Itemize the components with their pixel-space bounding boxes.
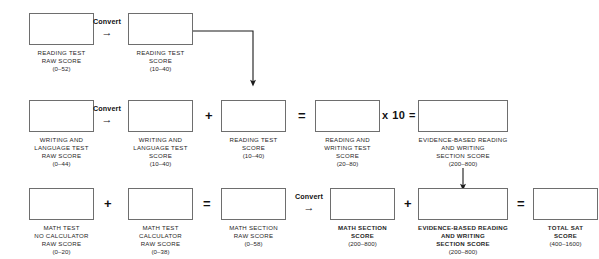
operator-equals-row3-a: = [203,197,211,210]
caption-line: AND WRITING [418,144,508,152]
caption-line: MATH TEST [128,224,193,232]
node-caption: MATH SECTION RAW SCORE (0–58) [221,224,286,248]
score-box[interactable] [221,100,286,132]
score-box[interactable] [29,13,94,45]
caption-range: (20–80) [315,160,380,168]
operator-plus-row3-a: + [104,197,112,210]
caption-line: WRITING AND [128,136,193,144]
convert-label: Convert [288,192,330,201]
caption-line: SCORE [533,232,598,240]
caption-range: (200–800) [330,240,395,248]
operator-equals-row2: = [298,109,306,122]
sat-score-conversion-diagram: READING TEST RAW SCORE (0–52) Convert → … [0,0,599,259]
node-caption: EVIDENCE-BASED READING AND WRITING SECTI… [418,224,508,256]
caption-line: READING AND [315,136,380,144]
node-caption: WRITING AND LANGUAGE TEST RAW SCORE (0–4… [29,136,94,168]
operator-plus-row3-b: + [404,197,412,210]
operator-equals-row3-b: = [517,197,525,210]
node-reading-and-writing-test-score: READING AND WRITING TEST SCORE (20–80) [315,100,380,168]
score-box[interactable] [315,100,380,132]
caption-range: (0–58) [221,240,286,248]
caption-line: MATH SECTION [330,224,395,232]
arrow-right-icon: → [288,202,330,213]
convert-step-writing: Convert → [86,104,128,125]
caption-range: (0–44) [29,160,94,168]
score-box[interactable] [221,188,286,220]
node-caption: TOTAL SAT SCORE (400–1600) [533,224,598,248]
node-caption: READING TEST SCORE (10–40) [128,49,193,73]
caption-range: (200–800) [418,248,508,256]
caption-line: RAW SCORE [29,152,94,160]
node-writing-language-test-raw-score: WRITING AND LANGUAGE TEST RAW SCORE (0–4… [29,100,94,168]
caption-line: READING TEST [221,136,286,144]
caption-line: LANGUAGE TEST [128,144,193,152]
convert-step-reading: Convert → [86,17,128,38]
node-math-test-no-calculator-raw-score: MATH TEST NO CALCULATOR RAW SCORE (0–20) [29,188,94,256]
caption-range: (10–40) [128,160,193,168]
caption-line: EVIDENCE-BASED READING [418,136,508,144]
caption-line: SCORE [315,152,380,160]
score-box[interactable] [128,13,193,45]
caption-line: TOTAL SAT [533,224,598,232]
arrow-right-icon: → [86,27,128,38]
arrow-right-icon: → [86,114,128,125]
caption-line: MATH SECTION [221,224,286,232]
score-box[interactable] [128,188,193,220]
caption-range: (10–40) [221,152,286,160]
score-box[interactable] [128,100,193,132]
score-box[interactable] [330,188,395,220]
node-total-sat-score: TOTAL SAT SCORE (400–1600) [533,188,598,248]
score-box[interactable] [29,188,94,220]
node-caption: MATH SECTION SCORE (200–800) [330,224,395,248]
caption-line: SCORE [330,232,395,240]
caption-line: RAW SCORE [221,232,286,240]
caption-range: (400–1600) [533,240,598,248]
node-reading-test-score: READING TEST SCORE (10–40) [128,13,193,73]
connector-reading-to-row2 [193,31,253,83]
convert-step-math: Convert → [288,192,330,213]
caption-line: NO CALCULATOR [29,232,94,240]
node-reading-test-raw-score: READING TEST RAW SCORE (0–52) [29,13,94,73]
node-caption: EVIDENCE-BASED READING AND WRITING SECTI… [418,136,508,168]
caption-line: WRITING AND [29,136,94,144]
caption-line: READING TEST [29,49,94,57]
score-box[interactable] [418,188,508,220]
caption-range: (0–38) [128,248,193,256]
node-math-test-calculator-raw-score: MATH TEST CALCULATOR RAW SCORE (0–38) [128,188,193,256]
score-box[interactable] [418,100,508,132]
node-evidence-based-reading-writing-section-score: EVIDENCE-BASED READING AND WRITING SECTI… [418,100,508,168]
caption-line: SCORE [128,57,193,65]
caption-range: (200–800) [418,160,508,168]
node-math-section-score: MATH SECTION SCORE (200–800) [330,188,395,248]
caption-range: (0–52) [29,65,94,73]
caption-line: RAW SCORE [128,240,193,248]
node-caption: MATH TEST CALCULATOR RAW SCORE (0–38) [128,224,193,256]
node-evidence-based-reading-writing-section-score-total: EVIDENCE-BASED READING AND WRITING SECTI… [418,188,508,256]
caption-line: SECTION SCORE [418,240,508,248]
node-math-section-raw-score: MATH SECTION RAW SCORE (0–58) [221,188,286,248]
caption-line: AND WRITING [418,232,508,240]
caption-line: SCORE [128,152,193,160]
caption-line: RAW SCORE [29,57,94,65]
operator-plus-row2: + [205,109,213,122]
node-caption: READING AND WRITING TEST SCORE (20–80) [315,136,380,168]
node-reading-test-score-copy: READING TEST SCORE (10–40) [221,100,286,160]
node-writing-language-test-score: WRITING AND LANGUAGE TEST SCORE (10–40) [128,100,193,168]
convert-label: Convert [86,104,128,113]
score-box[interactable] [29,100,94,132]
node-caption: WRITING AND LANGUAGE TEST SCORE (10–40) [128,136,193,168]
score-box[interactable] [533,188,598,220]
convert-label: Convert [86,17,128,26]
node-caption: READING TEST SCORE (10–40) [221,136,286,160]
caption-line: CALCULATOR [128,232,193,240]
caption-line: SCORE [221,144,286,152]
caption-line: RAW SCORE [29,240,94,248]
caption-line: MATH TEST [29,224,94,232]
caption-range: (0–20) [29,248,94,256]
caption-line: READING TEST [128,49,193,57]
caption-line: EVIDENCE-BASED READING [418,224,508,232]
node-caption: READING TEST RAW SCORE (0–52) [29,49,94,73]
operator-times-ten: x 10 = [382,110,416,121]
caption-line: SECTION SCORE [418,152,508,160]
caption-range: (10–40) [128,65,193,73]
